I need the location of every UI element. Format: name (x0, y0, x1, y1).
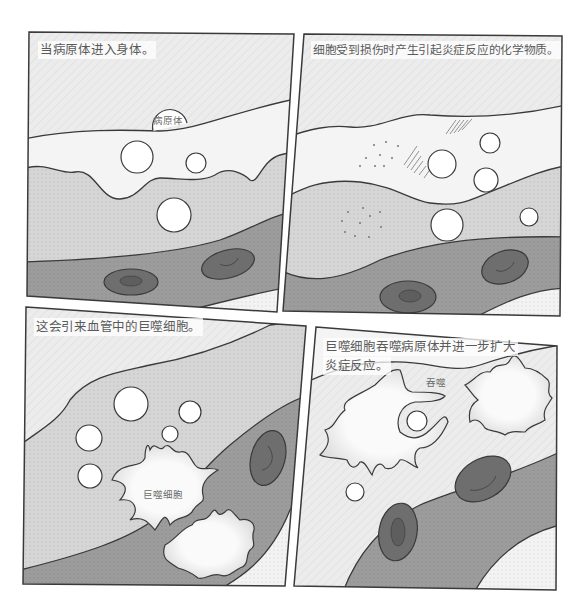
pathogen-icon (186, 153, 206, 173)
panel-3 (0, 300, 310, 600)
panel-1-caption: 当病原体进入身体。 (38, 41, 156, 59)
pathogen-icon (474, 168, 498, 192)
macrophage-label: 巨噬细胞 (143, 487, 183, 501)
pathogen-icon (428, 150, 456, 178)
pathogen-icon (121, 141, 153, 173)
pathogen-icon (179, 401, 201, 423)
comic-artwork (0, 0, 580, 613)
comic-page: 当病原体进入身体。 细胞受到损伤时产生引起炎症反应的化学物质。 这会引来血管中的… (0, 0, 580, 613)
red-blood-cell-icon (380, 281, 436, 313)
panel-3-caption: 这会引来血管中的巨噬细胞。 (34, 318, 203, 336)
panel-4-caption-line2: 炎症反应。 (323, 357, 391, 375)
pathogen-icon (76, 425, 102, 451)
pathogen-icon (162, 426, 178, 442)
pathogen-icon (407, 411, 427, 431)
pathogen-icon (520, 208, 538, 226)
pathogen-icon (480, 133, 500, 153)
pathogen-icon (431, 209, 463, 241)
panel-4-caption-line1: 巨噬细胞吞噬病原体并进一步扩大 (323, 338, 518, 356)
pathogen-label: 病原体 (153, 113, 183, 127)
pathogen-icon (157, 198, 191, 232)
pathogen-icon (114, 387, 148, 421)
pathogen-icon (78, 464, 102, 488)
panel-2-caption: 细胞受到损伤时产生引起炎症反应的化学物质。 (311, 41, 561, 59)
pathogen-icon (346, 483, 364, 501)
red-blood-cell-icon (104, 269, 158, 295)
engulf-label: 吞噬 (426, 375, 446, 389)
